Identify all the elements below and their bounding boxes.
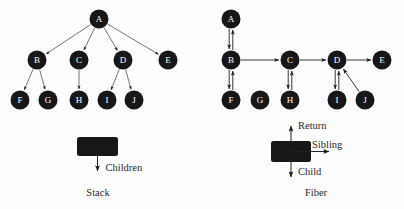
left-diagram-caption: Stack — [86, 187, 110, 198]
sibling-arrow-label: Sibling — [312, 139, 343, 150]
node-label-b: B — [34, 55, 40, 65]
node-label-h: H — [76, 95, 83, 105]
return-arrow-label: Return — [298, 120, 327, 131]
edge-b-g — [40, 70, 45, 90]
node-d: D — [328, 51, 347, 70]
node-label-j: J — [132, 95, 136, 105]
node-label-a: A — [228, 14, 235, 24]
node-e: E — [159, 51, 178, 70]
node-label-e: E — [165, 55, 171, 65]
edge-return-j-d — [343, 69, 359, 92]
left-tree-nodes: ABCDEFGHIJ — [11, 10, 178, 110]
node-i: I — [328, 91, 347, 110]
fiber-legend: ReturnSiblingChild — [271, 120, 343, 177]
children-arrow-label: Children — [106, 162, 143, 173]
node-i: I — [98, 91, 117, 110]
node-label-h: H — [287, 95, 294, 105]
right-tree-edges — [229, 29, 371, 92]
node-label-f: F — [228, 95, 233, 105]
node-g: G — [251, 91, 270, 110]
node-label-g: G — [257, 95, 264, 105]
node-d: D — [114, 51, 133, 70]
node-g: G — [39, 91, 58, 110]
node-label-i: I — [336, 95, 339, 105]
node-h: H — [281, 91, 300, 110]
node-j: J — [356, 91, 375, 110]
node-b: B — [222, 51, 241, 70]
edge-a-c — [84, 28, 95, 50]
node-f: F — [222, 91, 241, 110]
stack-legend: Children — [77, 137, 143, 173]
node-label-c: C — [287, 55, 293, 65]
node-h: H — [70, 91, 89, 110]
diagram-svg: ABCDEFGHIJ ABCDEFGHIJ Children ReturnSib… — [0, 0, 404, 209]
edge-b-f — [24, 69, 33, 90]
figure-canvas: ABCDEFGHIJ ABCDEFGHIJ Children ReturnSib… — [0, 0, 404, 209]
node-label-b: B — [228, 55, 234, 65]
node-label-j: J — [363, 95, 367, 105]
edge-a-d — [104, 28, 117, 51]
child-arrow-label: Child — [298, 166, 322, 177]
node-label-f: F — [17, 95, 22, 105]
node-label-g: G — [45, 95, 52, 105]
node-c: C — [281, 51, 300, 70]
right-diagram-caption: Fiber — [305, 187, 328, 198]
node-j: J — [125, 91, 144, 110]
node-label-i: I — [106, 95, 109, 105]
edge-a-e — [108, 24, 159, 54]
node-label-e: E — [379, 55, 385, 65]
right-tree-nodes: ABCDEFGHIJ — [222, 10, 392, 110]
edge-d-j — [126, 70, 131, 90]
edge-d-i — [111, 69, 119, 90]
node-label-c: C — [76, 55, 82, 65]
node-b: B — [28, 51, 47, 70]
node-c: C — [70, 51, 89, 70]
node-label-a: A — [96, 14, 103, 24]
stack-legend-box — [77, 137, 118, 156]
node-a: A — [90, 10, 109, 29]
node-label-d: D — [334, 55, 341, 65]
node-f: F — [11, 91, 30, 110]
node-e: E — [373, 51, 392, 70]
node-label-d: D — [120, 55, 127, 65]
node-a: A — [222, 10, 241, 29]
